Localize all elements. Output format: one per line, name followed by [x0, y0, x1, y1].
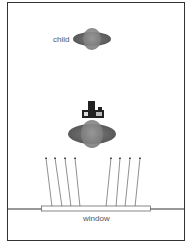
- window: [42, 206, 151, 211]
- child-head: [83, 28, 101, 50]
- adult-head: [81, 120, 103, 148]
- child-label: child: [53, 35, 69, 44]
- scene-diagram: child window: [0, 0, 194, 244]
- window-label: window: [82, 214, 110, 223]
